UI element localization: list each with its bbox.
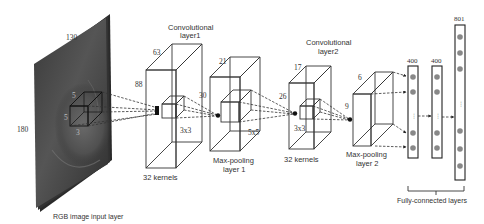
fc2-size-label: 400 (431, 57, 442, 65)
output-size-label: 801 (454, 15, 465, 23)
input-width-label: 130 (66, 33, 78, 42)
conv2-depth-label: 17 (294, 63, 302, 72)
pool1-to-conv2-connections (239, 90, 297, 122)
conv1-kernel-label: 3x3 (180, 126, 192, 135)
pool2-title-line2: layer 2 (356, 159, 379, 168)
input-kernel-dim-c: 3 (76, 128, 80, 137)
conv2-height-label: 26 (279, 92, 287, 101)
conv2-title-line1: Convolutional (306, 38, 352, 47)
conv-layer-2 (289, 66, 331, 149)
conv1-title-line2: layer1 (180, 31, 200, 40)
fc-layers-label: Fully-connected layers (397, 197, 468, 205)
pool1-kernel-label: 5x5 (248, 128, 260, 137)
pool2-height-label: 9 (345, 102, 349, 111)
conv1-kernels-label: 32 kernels (143, 173, 178, 182)
fc1-ellipsis: ⋮ (411, 113, 417, 119)
fc-layer-1: ⋮ (408, 66, 418, 158)
pool1-depth-label: 21 (219, 57, 227, 66)
pool2-depth-label: 6 (358, 73, 362, 82)
pool2-title-line1: Max-pooling (346, 150, 387, 159)
output-layer: ⋮ (455, 25, 465, 180)
output-ellipsis: ⋮ (458, 101, 464, 107)
fc-bracket (408, 186, 464, 195)
pool1-height-label: 30 (199, 91, 207, 100)
max-pooling-layer-2 (353, 72, 393, 146)
fc1-size-label: 400 (407, 57, 418, 65)
conv1-height-label: 88 (135, 80, 143, 89)
input-image-layer: 5 5 3 130 180 RGB image input layer (17, 14, 124, 221)
cnn-architecture-diagram: 5 5 3 130 180 RGB image input layer Conv… (0, 0, 484, 224)
fc2-ellipsis: ⋮ (435, 113, 441, 119)
conv1-depth-label: 63 (153, 48, 161, 57)
input-kernel-dim-a: 5 (72, 91, 76, 100)
fc-layer-2: ⋮ (432, 66, 442, 158)
pool1-title-line1: Max-pooling (213, 156, 254, 165)
pool1-title-line2: layer 1 (223, 165, 246, 174)
face-image (48, 74, 112, 166)
conv2-kernel-label: 3x3 (294, 124, 306, 133)
input-kernel-dim-b: 5 (64, 113, 68, 122)
conv2-kernels-label: 32 kernels (284, 155, 319, 164)
input-height-label: 180 (17, 125, 29, 134)
pool2-to-fc1-connections (371, 72, 406, 147)
conv2-title-line2: layer2 (318, 47, 338, 56)
conv-layer-1 (146, 44, 202, 168)
input-layer-label: RGB image input layer (53, 213, 124, 221)
